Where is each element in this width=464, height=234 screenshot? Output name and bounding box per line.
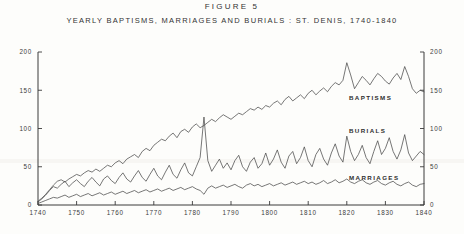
svg-text:1810: 1810: [300, 209, 317, 216]
line-chart-svg: 050100150200 050100150200 17401750176017…: [0, 40, 464, 220]
svg-text:1790: 1790: [223, 209, 240, 216]
svg-text:1740: 1740: [30, 209, 47, 216]
svg-text:150: 150: [430, 87, 443, 94]
y-axis-labels-right: 050100150200: [430, 48, 443, 208]
series-line-marriages: [38, 179, 424, 203]
svg-text:1800: 1800: [261, 209, 278, 216]
svg-text:0: 0: [28, 201, 32, 208]
series-label-marriages: MARRIAGES: [349, 174, 399, 181]
svg-text:50: 50: [430, 163, 438, 170]
svg-text:1760: 1760: [107, 209, 124, 216]
figure-chart: FIGURE 5 YEARLY BAPTISMS, MARRIAGES AND …: [0, 0, 464, 234]
svg-text:1840: 1840: [416, 209, 433, 216]
scan-artifact-band: [0, 159, 464, 163]
svg-text:1780: 1780: [184, 209, 201, 216]
svg-text:100: 100: [19, 125, 32, 132]
svg-text:50: 50: [24, 163, 32, 170]
svg-text:100: 100: [430, 125, 443, 132]
svg-text:200: 200: [19, 48, 32, 55]
svg-text:1770: 1770: [145, 209, 162, 216]
plot-area: 050100150200 050100150200 17401750176017…: [0, 40, 464, 220]
svg-text:1820: 1820: [338, 209, 355, 216]
series-label-baptisms: BAPTISMS: [349, 94, 392, 101]
svg-text:1830: 1830: [377, 209, 394, 216]
svg-text:1750: 1750: [68, 209, 85, 216]
svg-text:0: 0: [430, 201, 434, 208]
svg-text:200: 200: [430, 48, 443, 55]
series-label-burials: BURIALS: [349, 127, 386, 134]
figure-subtitle: YEARLY BAPTISMS, MARRIAGES AND BURIALS :…: [0, 16, 464, 25]
x-axis-labels: 1740175017601770178017901800181018201830…: [30, 209, 433, 216]
figure-number: FIGURE 5: [0, 2, 464, 11]
svg-text:150: 150: [19, 87, 32, 94]
y-axis-labels-left: 050100150200: [19, 48, 32, 208]
